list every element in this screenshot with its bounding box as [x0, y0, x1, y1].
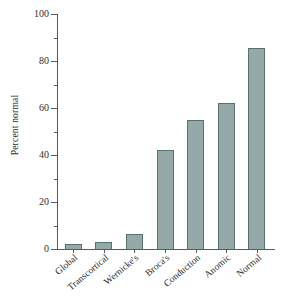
y-tick-mark [51, 108, 58, 109]
bar-wernicke-s [126, 234, 143, 249]
y-tick-mark [51, 14, 58, 15]
plot-area: 020406080100 [58, 14, 272, 249]
y-tick-mark [51, 202, 58, 203]
y-tick-mark [51, 155, 58, 156]
y-axis-title: Percent normal [2, 0, 28, 250]
y-tick-mark [51, 249, 58, 250]
bar-conduction [187, 120, 204, 249]
y-tick-label: 60 [39, 103, 49, 113]
bar-series [58, 14, 272, 249]
y-tick-label: 100 [34, 9, 49, 19]
bar-broca-s [157, 150, 174, 249]
x-axis-line [57, 249, 275, 250]
y-tick-mark [51, 61, 58, 62]
x-axis-label-text: Normal [235, 252, 265, 279]
y-tick-label: 0 [44, 244, 49, 254]
y-tick-label: 20 [39, 197, 49, 207]
y-tick-label: 80 [39, 56, 49, 66]
bar-transcortical [95, 242, 112, 249]
x-axis-label: Normal [205, 252, 265, 304]
bar-normal [248, 48, 265, 249]
y-tick-label: 40 [39, 150, 49, 160]
x-axis-labels: GlobalTranscorticalWernicke'sBroca'sCond… [58, 252, 272, 306]
bar-chart-figure: Percent normal 020406080100 GlobalTransc… [0, 0, 281, 306]
y-axis-title-text: Percent normal [10, 95, 20, 156]
bar-anomic [218, 103, 235, 249]
